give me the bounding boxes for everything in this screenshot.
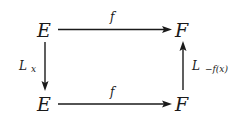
right-arrow xyxy=(180,41,187,90)
top-arrow-label: f xyxy=(109,10,117,24)
left-label-main: L xyxy=(18,59,27,73)
top-arrow xyxy=(58,26,172,33)
node-bottom-left-E: E xyxy=(36,93,51,115)
left-arrow xyxy=(42,42,49,91)
node-top-right-F: F xyxy=(174,19,189,41)
left-arrow-label: L x xyxy=(18,56,36,74)
commutative-diagram: E F E F f f L x L −f(x) xyxy=(0,0,248,125)
right-label-main: L xyxy=(191,59,200,73)
bottom-arrow xyxy=(58,101,172,108)
right-label-sub: −f(x) xyxy=(205,64,228,74)
bottom-arrow-label: f xyxy=(109,85,117,99)
node-bottom-right-F: F xyxy=(174,93,189,115)
node-top-left-E: E xyxy=(36,19,51,41)
right-arrow-label: L −f(x) xyxy=(191,56,228,74)
left-label-sub: x xyxy=(31,64,36,74)
